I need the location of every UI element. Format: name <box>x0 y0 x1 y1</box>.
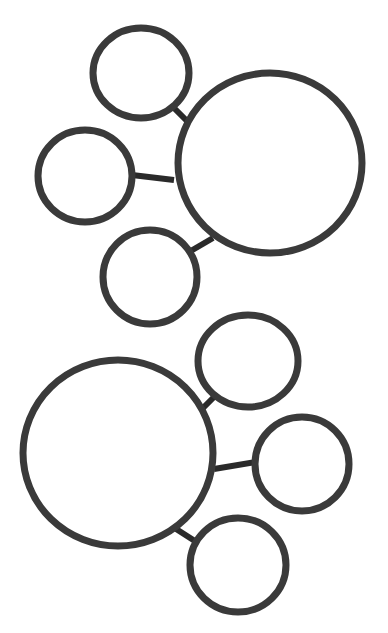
satellite-bubble <box>103 230 197 324</box>
satellite-bubble <box>198 315 298 407</box>
satellite-bubble <box>93 28 189 118</box>
cluster-bottom <box>23 315 349 612</box>
satellite-bubble <box>190 518 286 612</box>
cluster-top <box>38 28 362 324</box>
center-bubble <box>23 360 213 546</box>
satellite-bubble <box>255 417 349 511</box>
connector <box>214 462 256 469</box>
satellite-bubble <box>38 130 132 222</box>
connector <box>132 175 174 180</box>
bubble-map-diagram <box>0 0 388 633</box>
center-bubble <box>178 73 362 253</box>
